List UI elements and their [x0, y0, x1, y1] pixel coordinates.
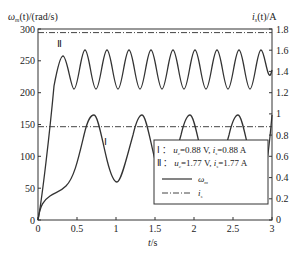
y-left-tick: 200	[20, 87, 35, 98]
legend-case-I: Ⅰ ：uc=0.88 V, is=0.88 A	[157, 145, 247, 156]
y-right-tick: 0	[276, 214, 281, 225]
x-tick: 2	[192, 223, 197, 234]
y-right-tick: 1.6	[276, 45, 289, 56]
chart: 0 50 100 150 200 250 300 0 0.2 0.4 0.6 0…	[0, 0, 300, 257]
x-tick: 3	[270, 223, 275, 234]
legend-case-II: Ⅱ ：uc=1.77 V, is=1.77 A	[157, 158, 248, 169]
x-tick: 1	[114, 223, 119, 234]
y-right-tick: 0.6	[276, 151, 289, 162]
x-label: t/s	[148, 237, 158, 248]
x-tick: 0	[36, 223, 41, 234]
legend: Ⅰ ：uc=0.88 V, is=0.88 A Ⅱ ：uc=1.77 V, is…	[154, 140, 268, 204]
y-right-tick: 1.4	[276, 66, 289, 77]
y-left-tick: 50	[25, 183, 35, 194]
y-right-tick: 0.8	[276, 130, 289, 141]
y-right-tick: 0.2	[276, 193, 289, 204]
y-left-label: ωm(t)/(rad/s)	[8, 11, 58, 23]
x-tick: 0.5	[71, 223, 84, 234]
y-right-label: is(t)/A	[252, 11, 277, 23]
x-tick: 2.5	[227, 223, 240, 234]
y-left-tick: 150	[20, 119, 35, 130]
y-left-tick: 100	[20, 151, 35, 162]
y-right-tick: 1.2	[276, 87, 289, 98]
y-left-tick: 0	[30, 215, 35, 226]
x-tick: 1.5	[149, 223, 162, 234]
annotation-case-I: Ⅰ	[104, 136, 107, 147]
y-right-tick: 0.4	[276, 172, 289, 183]
y-right-tick: 1	[276, 108, 281, 119]
y-left-tick: 250	[20, 55, 35, 66]
annotation-case-II: Ⅱ	[57, 38, 62, 49]
y-left-tick: 300	[20, 24, 35, 35]
y-right-tick: 1.8	[276, 24, 289, 35]
